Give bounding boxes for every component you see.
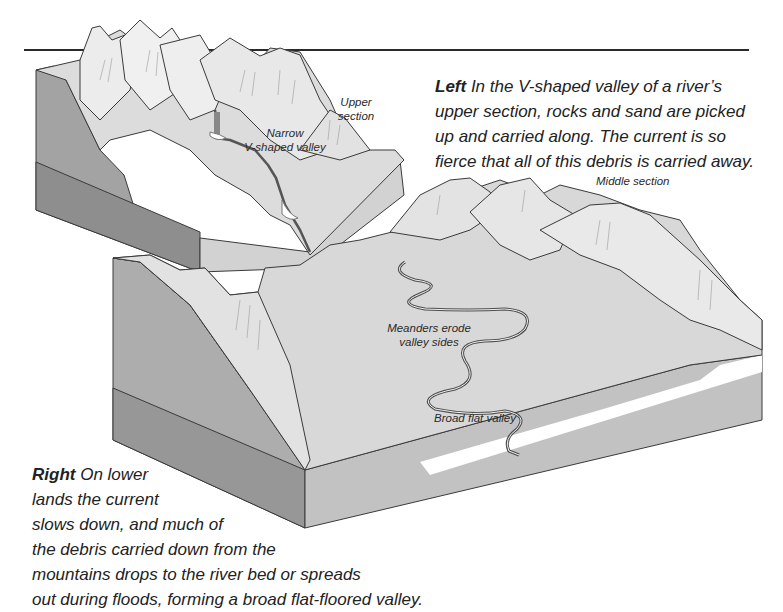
caption-left-text: In the V-shaped valley of a river’s uppe… — [435, 77, 754, 171]
caption-right-line-0: Right On lower — [32, 462, 432, 487]
upper-section-block — [36, 20, 404, 272]
caption-right-line-5: out during floods, forming a broad flat-… — [32, 587, 432, 612]
caption-left: Left In the V-shaped valley of a river’s… — [435, 74, 765, 174]
label-upper-section: Upper section — [326, 95, 386, 123]
label-broad-flat-valley: Broad flat valley — [420, 411, 530, 425]
caption-right-line-3: the debris carried down from the — [32, 537, 432, 562]
label-narrow-valley: Narrow V-shaped valley — [230, 126, 340, 154]
label-meanders-line1: Meanders erode — [370, 321, 488, 335]
label-meanders-line2: valley sides — [370, 335, 488, 349]
caption-right-lead: Right — [32, 465, 75, 484]
caption-left-lead: Left — [435, 77, 466, 96]
caption-right-line-2: slows down, and much of — [32, 512, 432, 537]
label-narrow-line1: Narrow — [230, 126, 340, 140]
label-upper-line2: section — [326, 109, 386, 123]
label-meanders: Meanders erode valley sides — [370, 321, 488, 349]
label-middle-section: Middle section — [596, 174, 706, 188]
caption-right-line-1: lands the current — [32, 487, 432, 512]
label-narrow-line2: V-shaped valley — [230, 140, 340, 154]
caption-right: Right On lower lands the current slows d… — [32, 462, 432, 612]
caption-right-line-4: mountains drops to the river bed or spre… — [32, 562, 432, 587]
label-upper-line1: Upper — [326, 95, 386, 109]
